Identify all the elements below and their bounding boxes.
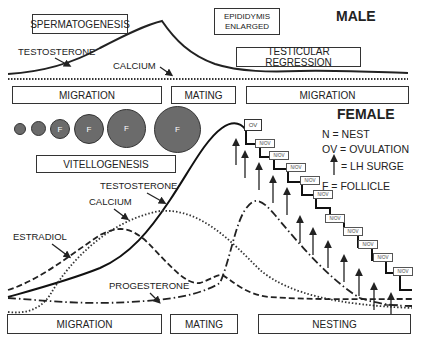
- phase-label: MATING: [184, 90, 222, 101]
- female-progesterone-label: PROGESTERONE: [109, 280, 189, 291]
- phase-label: MATING: [185, 319, 223, 330]
- nov-box-1: N/OV: [255, 139, 275, 148]
- legend-follicle: F = FOLLICLE: [322, 180, 390, 192]
- female-phase-mating: MATING: [170, 314, 238, 334]
- female-testosterone-arrow: [147, 193, 163, 202]
- epididymis-line2: ENLARGED: [225, 22, 269, 32]
- follicle-4: F: [74, 114, 104, 144]
- vitellogenesis-label: VITELLOGENESIS: [63, 159, 149, 170]
- nov-box-8: N/OV: [358, 240, 378, 249]
- female-testosterone-label: TESTOSTERONE: [100, 180, 177, 191]
- female-title: FEMALE: [337, 106, 395, 122]
- phase-label: MIGRATION: [300, 90, 356, 101]
- female-estradiol-label: ESTRADIOL: [13, 231, 67, 242]
- ov-box: OV: [244, 119, 262, 131]
- ov-label: OV: [249, 122, 258, 128]
- nov-box-9: N/OV: [373, 253, 393, 262]
- female-calcium-label: CALCIUM: [89, 196, 132, 207]
- nov-box-7: N/OV: [343, 227, 363, 236]
- male-phase-migration-1: MIGRATION: [12, 86, 162, 104]
- male-phase-mating: MATING: [171, 86, 236, 104]
- epididymis-box: EPIDIDYMIS ENLARGED: [214, 8, 280, 35]
- nov-box-10: N/OV: [393, 267, 413, 276]
- nov-box-6: N/OV: [325, 214, 345, 223]
- nov-box-3: N/OV: [286, 163, 306, 172]
- female-estradiol-arrow: [52, 244, 68, 256]
- phase-label: NESTING: [312, 319, 356, 330]
- spermatogenesis-label: SPERMATOGENESIS: [30, 19, 130, 30]
- testicular-regression-box: TESTICULAR REGRESSION: [236, 47, 361, 67]
- male-title: MALE: [336, 8, 376, 24]
- male-calcium-arrow: [160, 67, 170, 74]
- nov-box-4: N/OV: [300, 176, 320, 185]
- testicular-regression-label: TESTICULAR REGRESSION: [237, 46, 360, 68]
- epididymis-line1: EPIDIDYMIS: [224, 12, 270, 22]
- follicle-5: F: [107, 109, 146, 148]
- female-phase-nesting: NESTING: [258, 314, 411, 334]
- legend-ovulation: OV = OVULATION: [322, 143, 409, 155]
- follicle-6: F: [154, 106, 201, 153]
- male-phase-migration-2: MIGRATION: [246, 86, 409, 104]
- female-phase-migration: MIGRATION: [7, 314, 162, 334]
- follicle-2: [31, 121, 46, 136]
- female-progesterone-curve: [8, 201, 412, 306]
- female-calcium-arrow: [114, 209, 126, 218]
- follicle-3: F: [50, 119, 70, 139]
- phase-label: MIGRATION: [59, 90, 115, 101]
- spermatogenesis-box: SPERMATOGENESIS: [32, 14, 128, 34]
- follicle-1: [14, 123, 26, 135]
- male-calcium-label: CALCIUM: [113, 60, 156, 71]
- vitellogenesis-box: VITELLOGENESIS: [36, 155, 176, 173]
- legend-lh-surge: = LH SURGE: [341, 160, 404, 172]
- legend-nest: N = NEST: [322, 128, 370, 140]
- phase-label: MIGRATION: [57, 319, 113, 330]
- male-testosterone-label: TESTOSTERONE: [18, 46, 95, 57]
- nov-box-2: N/OV: [269, 151, 289, 160]
